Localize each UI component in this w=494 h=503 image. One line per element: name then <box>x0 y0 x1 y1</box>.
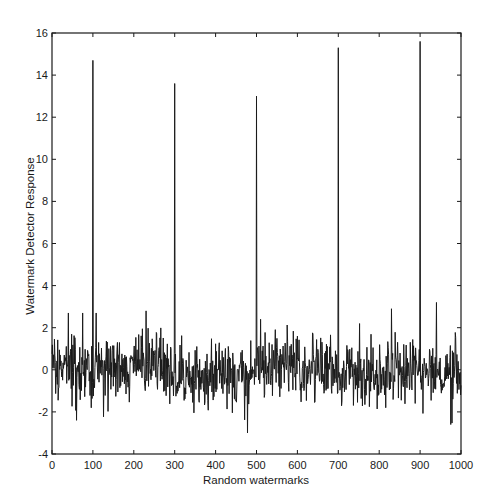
x-tick-label: 100 <box>84 459 102 471</box>
x-tick-label: 400 <box>206 459 224 471</box>
x-tick-label: 500 <box>247 459 265 471</box>
x-tick-label: 0 <box>49 459 55 471</box>
y-tick-label: -4 <box>38 448 48 460</box>
plot-area <box>52 41 461 433</box>
x-tick-label: 800 <box>370 459 388 471</box>
x-tick-label: 700 <box>329 459 347 471</box>
y-axis-label: Watermark Detector Response <box>24 157 36 314</box>
y-tick-label: 16 <box>36 27 48 39</box>
y-tick-label: 4 <box>42 280 48 292</box>
x-axis-ticks: 01002003004005006007008009001000 <box>49 33 473 471</box>
x-tick-label: 600 <box>288 459 306 471</box>
x-tick-label: 200 <box>125 459 143 471</box>
x-tick-label: 300 <box>166 459 184 471</box>
y-tick-label: 8 <box>42 195 48 207</box>
y-tick-label: 2 <box>42 322 48 334</box>
x-tick-label: 1000 <box>449 459 473 471</box>
y-tick-label: -2 <box>38 406 48 418</box>
x-tick-label: 900 <box>411 459 429 471</box>
y-tick-label: 14 <box>36 69 48 81</box>
y-tick-label: 0 <box>42 364 48 376</box>
x-axis-label: Random watermarks <box>203 474 309 486</box>
y-tick-label: 6 <box>42 238 48 250</box>
y-tick-label: 10 <box>36 153 48 165</box>
chart-canvas: 01002003004005006007008009001000 -4-2024… <box>0 0 494 503</box>
detector-response-line <box>52 41 461 433</box>
y-tick-label: 12 <box>36 111 48 123</box>
